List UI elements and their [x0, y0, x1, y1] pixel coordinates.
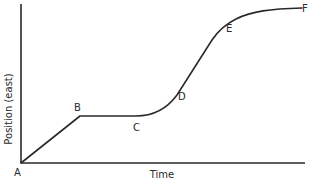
- point-label-d: D: [178, 91, 186, 102]
- y-axis-label: Position (east): [3, 73, 14, 144]
- point-label-f: F: [302, 3, 308, 14]
- point-label-e: E: [226, 23, 232, 34]
- position-time-graph: A B C D E F Position (east) Time: [0, 0, 309, 180]
- point-label-b: B: [74, 102, 81, 113]
- x-axis-label: Time: [149, 169, 174, 180]
- point-label-c: C: [133, 122, 140, 133]
- position-curve: [21, 8, 302, 163]
- point-label-a: A: [14, 167, 21, 178]
